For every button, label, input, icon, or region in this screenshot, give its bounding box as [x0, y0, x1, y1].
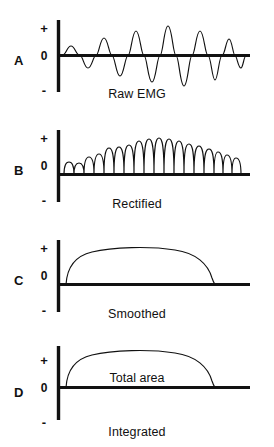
total-area-label: Total area — [0, 372, 274, 385]
rectified-trace — [64, 138, 241, 175]
caption-smoothed: Smoothed — [0, 308, 274, 321]
panel-smoothed: C + 0 - Smoothed — [0, 222, 274, 332]
smoothed-envelope-trace — [66, 248, 215, 285]
emg-processing-figure: A + 0 - Raw EMG B + 0 - Rectified C + 0 … — [0, 0, 274, 447]
caption-raw-emg: Raw EMG — [0, 88, 274, 101]
caption-rectified: Rectified — [0, 198, 274, 211]
caption-integrated: Integrated — [0, 426, 274, 439]
panel-integrated: D + 0 - Total area Integrated — [0, 334, 274, 444]
panel-rectified: B + 0 - Rectified — [0, 112, 274, 222]
panel-raw-emg: A + 0 - Raw EMG — [0, 2, 274, 112]
